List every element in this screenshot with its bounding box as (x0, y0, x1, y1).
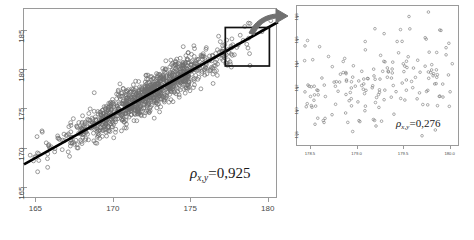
y-tick-label: 186 (294, 37, 299, 49)
x-tick-label: 170 (99, 204, 127, 213)
y-tick-label: 175 (17, 108, 26, 136)
x-tick-mark (268, 198, 269, 202)
correlation-figure: 165170175180185 165170175180 ρx,y=0,925 … (0, 0, 474, 240)
x-tick-label: 178.5 (303, 151, 317, 156)
x-tick-label: 179.0 (350, 151, 364, 156)
x-tick-label: 165 (21, 204, 49, 213)
full-scatter-panel: 165170175180185 165170175180 ρx,y=0,925 (0, 0, 290, 240)
x-tick-label: 175 (176, 204, 204, 213)
x-tick-mark (403, 146, 404, 149)
x-tick-label: 179.5 (396, 151, 410, 156)
y-tick-label: 182 (294, 84, 299, 96)
left-correlation-annotation: ρx,y=0,925 (190, 165, 251, 182)
y-tick-label: 170 (17, 147, 26, 175)
x-tick-mark (113, 198, 114, 202)
y-tick-label: 178 (294, 132, 299, 144)
y-tick-label: 185 (17, 29, 26, 57)
y-tick-label: 188 (294, 13, 299, 25)
x-tick-mark (310, 146, 311, 149)
x-tick-label: 180 (254, 204, 282, 213)
x-tick-mark (190, 198, 191, 202)
rho-subscript: x,y (197, 173, 208, 183)
zoomed-scatter-panel: 178180182184186188 178.5179.0179.5180.0 … (290, 0, 474, 240)
rho-subscript: x,y (401, 123, 409, 130)
x-tick-label: 180.0 (443, 151, 457, 156)
y-tick-label: 180 (294, 108, 299, 120)
right-correlation-annotation: ρx,y=0,276 (396, 117, 440, 129)
x-tick-mark (357, 146, 358, 149)
x-tick-mark (450, 146, 451, 149)
y-tick-label: 184 (294, 61, 299, 73)
x-tick-mark (35, 198, 36, 202)
rho-value: =0,276 (409, 117, 440, 129)
rho-value: =0,925 (208, 165, 250, 181)
y-tick-label: 180 (17, 69, 26, 97)
